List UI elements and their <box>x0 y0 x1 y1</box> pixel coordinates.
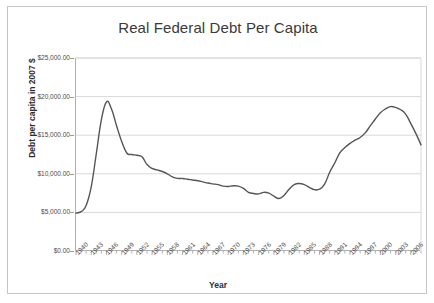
y-axis-tick <box>70 97 74 98</box>
y-axis-tick <box>70 58 74 59</box>
data-line-series <box>76 101 421 213</box>
plot-area <box>75 58 420 251</box>
y-axis-tick-label: $20,000.00 <box>37 93 70 100</box>
y-axis-tick-label: $25,000.00 <box>37 54 70 61</box>
y-axis-tick <box>70 174 74 175</box>
screenshot-root: Real Federal Debt Per Capita Debt per ca… <box>0 0 434 303</box>
chart-title: Real Federal Debt Per Capita <box>8 19 428 36</box>
y-axis-tick-label: $5,000.00 <box>41 208 70 215</box>
y-axis-tick-label: $0.00 <box>54 247 70 254</box>
clipped-text-strip <box>0 0 434 5</box>
y-axis-tick <box>70 212 74 213</box>
chart-container: Real Federal Debt Per Capita Debt per ca… <box>7 6 427 294</box>
chart-svg <box>76 58 421 251</box>
y-axis-tick-label: $15,000.00 <box>37 131 70 138</box>
y-axis-tick <box>70 135 74 136</box>
x-axis-title: Year <box>8 280 428 290</box>
y-axis-tick-labels: $0.00$5,000.00$10,000.00$15,000.00$20,00… <box>8 52 74 262</box>
y-axis-tick-label: $10,000.00 <box>37 170 70 177</box>
